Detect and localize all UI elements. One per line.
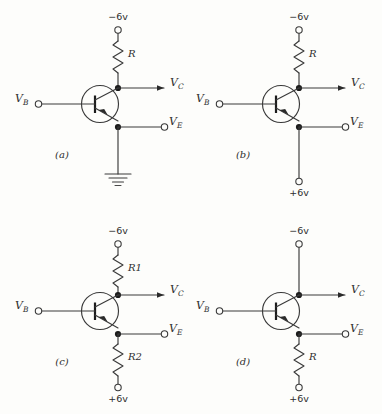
panel-b-base-terminal[interactable]: [216, 101, 222, 107]
panel-b-bottom-supply-terminal[interactable]: [296, 178, 302, 184]
panel-a-caption: (a): [55, 149, 69, 160]
panel-c-bottom-resistor: [113, 344, 123, 376]
panel-a-transistor-collector-lead: [95, 88, 118, 100]
panel-d-caption: (d): [236, 356, 250, 367]
panel-d-base-sublabel: B: [203, 305, 210, 314]
panel-d-bottom-resistor: [294, 344, 304, 376]
panel-c-bottom-supply-terminal[interactable]: [115, 384, 121, 390]
panel-a: −6v R V C V B V E: [15, 11, 184, 186]
panel-c-caption: (c): [55, 356, 69, 367]
panel-c-top-supply-terminal[interactable]: [115, 241, 121, 247]
panel-d-base-terminal[interactable]: [216, 308, 222, 314]
panel-c-emitter-sublabel: E: [176, 328, 183, 337]
panel-a-collector-sublabel: C: [178, 82, 184, 91]
panel-a-top-resistor-label: R: [127, 48, 136, 59]
panel-d-emitter-terminal[interactable]: [342, 331, 348, 337]
panel-a-top-resistor: [113, 41, 123, 73]
panel-a-transistor-emitter-arrow-icon: [99, 109, 108, 115]
panel-c-transistor-emitter-arrow-icon: [99, 316, 108, 322]
panel-a-collector-arrow-icon: [157, 85, 164, 91]
panel-c-bottom-supply-label: +6v: [108, 393, 128, 404]
panel-c-base-terminal[interactable]: [35, 308, 41, 314]
panel-b-collector-sublabel: C: [359, 82, 365, 91]
panel-d-transistor-emitter-arrow-icon: [280, 316, 289, 322]
panel-b-bottom-supply-label: +6v: [289, 187, 309, 198]
panel-b: −6v R V C V B V E +6v (b): [196, 11, 365, 198]
panel-c-top-resistor-label: R1: [127, 262, 142, 273]
panel-a-top-supply-terminal[interactable]: [115, 27, 121, 33]
panel-b-emitter-sublabel: E: [357, 121, 364, 130]
panel-a-base-terminal[interactable]: [35, 101, 41, 107]
panel-c: −6v R1 V C V B V E R2 +6v (c): [15, 225, 184, 404]
panel-d-bottom-supply-label: +6v: [289, 393, 309, 404]
panel-b-transistor-collector-lead: [276, 88, 299, 100]
panel-a-top-supply-label: −6v: [108, 11, 128, 22]
panel-b-caption: (b): [236, 149, 250, 160]
panel-c-emitter-terminal[interactable]: [161, 331, 167, 337]
panel-d: −6v V C V B V E R +6v (d): [196, 225, 365, 404]
panel-c-top-supply-label: −6v: [108, 225, 128, 236]
panel-d-bottom-supply-terminal[interactable]: [296, 384, 302, 390]
panel-b-transistor-emitter-arrow-icon: [280, 109, 289, 115]
panel-c-base-sublabel: B: [22, 305, 29, 314]
panel-d-top-supply-terminal[interactable]: [296, 241, 302, 247]
panel-b-collector-arrow-icon: [338, 85, 345, 91]
panel-d-collector-arrow-icon: [338, 292, 345, 298]
panel-b-top-supply-label: −6v: [289, 11, 309, 22]
panel-d-transistor-collector-lead: [276, 295, 299, 307]
panel-a-emitter-terminal[interactable]: [161, 124, 167, 130]
panel-d-top-supply-label: −6v: [289, 225, 309, 236]
panel-a-emitter-sublabel: E: [176, 121, 183, 130]
panel-c-bottom-resistor-label: R2: [127, 351, 142, 362]
panel-c-top-resistor: [113, 255, 123, 287]
panel-b-base-sublabel: B: [203, 98, 210, 107]
panel-b-top-resistor: [294, 41, 304, 73]
panel-c-collector-arrow-icon: [157, 292, 164, 298]
panel-d-emitter-sublabel: E: [357, 328, 364, 337]
panel-c-transistor-collector-lead: [95, 295, 118, 307]
panel-c-collector-sublabel: C: [178, 289, 184, 298]
panel-b-top-supply-terminal[interactable]: [296, 27, 302, 33]
panel-b-top-resistor-label: R: [308, 48, 317, 59]
panel-d-bottom-resistor-label: R: [308, 351, 317, 362]
panel-d-collector-sublabel: C: [359, 289, 365, 298]
circuit-diagram: −6v R V C V B V E: [0, 0, 382, 414]
panel-b-emitter-terminal[interactable]: [342, 124, 348, 130]
panel-a-base-sublabel: B: [22, 98, 29, 107]
figure-root: −6v R V C V B V E: [0, 0, 382, 414]
